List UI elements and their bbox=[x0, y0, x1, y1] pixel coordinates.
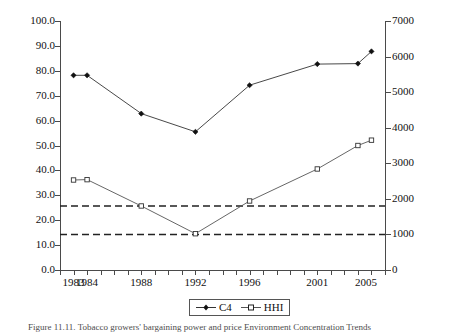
y-axis-left-tick bbox=[55, 146, 60, 147]
y-axis-left-tick bbox=[55, 96, 60, 97]
figure-caption: Figure 11.11. Tobacco growers' bargainin… bbox=[28, 322, 448, 333]
data-point-hhi bbox=[193, 232, 197, 236]
y-axis-right-tick bbox=[386, 270, 391, 271]
data-point-hhi bbox=[139, 204, 143, 208]
chart-figure: 0.010.020.030.040.050.060.070.080.090.01… bbox=[0, 0, 454, 333]
legend-item-hhi: HHI bbox=[241, 301, 284, 313]
x-axis-tick bbox=[60, 271, 61, 275]
data-point-hhi bbox=[356, 143, 360, 147]
legend-marker-hhi-icon bbox=[241, 303, 261, 312]
data-point-hhi bbox=[85, 177, 89, 181]
data-point-hhi bbox=[71, 178, 75, 182]
y-axis-left-line bbox=[60, 21, 61, 271]
chart-legend: C4 HHI bbox=[189, 299, 290, 316]
data-point-c4 bbox=[71, 73, 76, 78]
data-point-hhi bbox=[369, 138, 373, 142]
x-axis-tick bbox=[114, 271, 115, 275]
x-axis-tick-label: 1992 bbox=[180, 277, 210, 288]
x-axis-tick bbox=[195, 271, 196, 275]
x-axis-tick-label: 1996 bbox=[235, 277, 265, 288]
data-point-c4 bbox=[84, 73, 89, 78]
y-axis-right-tick-label: 5000 bbox=[392, 86, 444, 97]
x-axis-tick bbox=[141, 271, 142, 275]
y-axis-left-tick bbox=[55, 121, 60, 122]
x-axis-tick bbox=[101, 271, 102, 275]
y-axis-left-tick bbox=[55, 46, 60, 47]
data-point-hhi bbox=[315, 167, 319, 171]
y-axis-left-tick-label: 80.0 bbox=[0, 65, 55, 76]
x-axis-tick bbox=[358, 271, 359, 275]
data-point-c4 bbox=[355, 61, 360, 66]
x-axis-tick-label: 1988 bbox=[126, 277, 156, 288]
legend-marker-c4-icon bbox=[196, 303, 216, 312]
x-axis-tick bbox=[344, 271, 345, 275]
y-axis-left-tick-label: 100.0 bbox=[0, 15, 55, 26]
x-axis-tick bbox=[371, 271, 372, 275]
y-axis-left-tick bbox=[55, 220, 60, 221]
y-axis-right-tick bbox=[386, 92, 391, 93]
y-axis-left-tick-label: 0.0 bbox=[0, 264, 55, 275]
data-point-c4 bbox=[139, 111, 144, 116]
y-axis-right-tick bbox=[386, 199, 391, 200]
data-point-c4 bbox=[247, 83, 252, 88]
y-axis-right-tick bbox=[386, 234, 391, 235]
y-axis-left-tick-label: 30.0 bbox=[0, 189, 55, 200]
x-axis-tick bbox=[168, 271, 169, 275]
data-point-c4 bbox=[193, 129, 198, 134]
data-point-c4 bbox=[369, 49, 374, 54]
legend-label-hhi: HHI bbox=[264, 301, 284, 313]
y-axis-right-tick-label: 7000 bbox=[392, 15, 444, 26]
y-axis-right-tick-label: 0 bbox=[392, 264, 444, 275]
x-axis-tick bbox=[385, 271, 386, 275]
x-axis-tick bbox=[182, 271, 183, 275]
x-axis-tick bbox=[155, 271, 156, 275]
y-axis-left-tick-label: 40.0 bbox=[0, 164, 55, 175]
x-axis-tick bbox=[128, 271, 129, 275]
legend-item-c4: C4 bbox=[196, 301, 232, 313]
y-axis-left-tick-label: 90.0 bbox=[0, 40, 55, 51]
y-axis-right-tick-label: 2000 bbox=[392, 193, 444, 204]
x-axis-tick bbox=[209, 271, 210, 275]
x-axis-tick bbox=[236, 271, 237, 275]
y-axis-left-tick-label: 20.0 bbox=[0, 214, 55, 225]
y-axis-right-tick-label: 6000 bbox=[392, 51, 444, 62]
y-axis-left-tick bbox=[55, 170, 60, 171]
y-axis-left-tick-label: 60.0 bbox=[0, 115, 55, 126]
x-axis-tick bbox=[223, 271, 224, 275]
x-axis-tick bbox=[87, 271, 88, 275]
y-axis-left-tick bbox=[55, 245, 60, 246]
data-point-hhi bbox=[247, 199, 251, 203]
x-axis-tick bbox=[331, 271, 332, 275]
y-axis-right-tick-label: 3000 bbox=[392, 157, 444, 168]
x-axis-tick-label: 2005 bbox=[351, 277, 381, 288]
y-axis-left-tick bbox=[55, 21, 60, 22]
x-axis-tick bbox=[304, 271, 305, 275]
x-axis-tick bbox=[74, 271, 75, 275]
y-axis-right-tick bbox=[386, 21, 391, 22]
series-line-hhi bbox=[74, 140, 372, 234]
y-axis-right-tick bbox=[386, 57, 391, 58]
x-axis-tick bbox=[263, 271, 264, 275]
x-axis-tick bbox=[277, 271, 278, 275]
y-axis-left-tick-label: 50.0 bbox=[0, 140, 55, 151]
x-axis-tick bbox=[250, 271, 251, 275]
x-axis-tick bbox=[317, 271, 318, 275]
y-axis-left-tick bbox=[55, 71, 60, 72]
y-axis-left-tick-label: 70.0 bbox=[0, 90, 55, 101]
x-axis-tick-label: 1984 bbox=[72, 277, 102, 288]
y-axis-right-tick bbox=[386, 128, 391, 129]
y-axis-left-tick-label: 10.0 bbox=[0, 239, 55, 250]
x-axis-tick-label: 2001 bbox=[302, 277, 332, 288]
x-axis-tick bbox=[290, 271, 291, 275]
y-axis-right-tick-label: 4000 bbox=[392, 122, 444, 133]
data-point-c4 bbox=[315, 61, 320, 66]
y-axis-right-tick-label: 1000 bbox=[392, 228, 444, 239]
legend-label-c4: C4 bbox=[219, 301, 232, 313]
y-axis-right-tick bbox=[386, 163, 391, 164]
y-axis-left-tick bbox=[55, 195, 60, 196]
series-line-c4 bbox=[74, 51, 372, 131]
